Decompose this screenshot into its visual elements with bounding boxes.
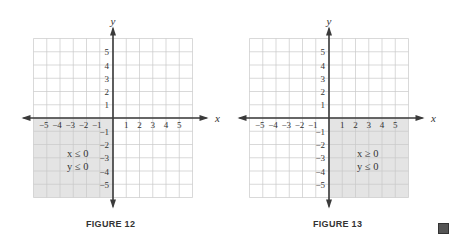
coordinate-plane-12: xy−5−4−3−2−11234554321−1−2−3−4−5x ≤ 0y ≤… <box>22 15 221 209</box>
y-tick-label: 1 <box>105 100 110 110</box>
x-axis-label: x <box>214 112 220 124</box>
coordinate-plane-13: xy−5−4−3−2−11234554321−1−2−3−4−5x ≥ 0y ≤… <box>238 15 437 209</box>
x-axis-label: x <box>430 112 436 124</box>
figures-canvas: xy−5−4−3−2−11234554321−1−2−3−4−5x ≤ 0y ≤… <box>0 0 453 242</box>
x-tick-label: 1 <box>340 120 345 130</box>
x-tick-label: −2 <box>295 120 305 130</box>
y-axis-label: y <box>326 15 332 27</box>
y-tick-label: 5 <box>105 47 110 57</box>
x-tick-label: 3 <box>367 120 372 130</box>
y-tick-label: −4 <box>315 167 325 177</box>
y-tick-label: −3 <box>99 153 109 163</box>
y-tick-label: −1 <box>315 127 325 137</box>
x-tick-label: −2 <box>79 120 89 130</box>
y-axis-label: y <box>110 15 116 27</box>
x-tick-label: −5 <box>39 120 49 130</box>
figure-12-caption: FIGURE 12 <box>86 219 135 229</box>
x-tick-label: 3 <box>151 120 156 130</box>
y-tick-label: 2 <box>321 87 326 97</box>
inequality-y: y ≤ 0 <box>357 161 379 172</box>
y-tick-label: 4 <box>321 61 326 71</box>
x-axis-right-arrow-icon <box>200 115 209 121</box>
y-tick-label: −2 <box>315 140 325 150</box>
y-tick-label: 5 <box>321 47 326 57</box>
x-tick-label: −4 <box>52 120 62 130</box>
y-tick-label: 1 <box>321 100 326 110</box>
x-tick-label: −5 <box>255 120 265 130</box>
figure-13-caption: FIGURE 13 <box>313 219 362 229</box>
y-axis-down-arrow-icon <box>110 200 116 209</box>
y-tick-label: 2 <box>105 87 110 97</box>
y-tick-label: 3 <box>321 74 326 84</box>
x-axis-left-arrow-icon <box>22 115 31 121</box>
x-tick-label: 5 <box>177 120 182 130</box>
x-axis-right-arrow-icon <box>416 115 425 121</box>
x-tick-label: −3 <box>281 120 291 130</box>
x-tick-label: 4 <box>380 120 385 130</box>
x-axis-left-arrow-icon <box>238 115 247 121</box>
x-tick-label: −3 <box>65 120 75 130</box>
y-axis-up-arrow-icon <box>326 27 332 36</box>
inequality-y: y ≤ 0 <box>67 161 89 172</box>
x-tick-label: 2 <box>353 120 358 130</box>
y-axis-down-arrow-icon <box>326 200 332 209</box>
y-tick-label: −1 <box>99 127 109 137</box>
y-tick-label: −4 <box>99 167 109 177</box>
y-tick-label: 3 <box>105 74 110 84</box>
x-tick-label: 4 <box>164 120 169 130</box>
y-tick-label: −5 <box>99 180 109 190</box>
y-axis-up-arrow-icon <box>110 27 116 36</box>
x-tick-label: 2 <box>137 120 142 130</box>
corner-badge-icon <box>438 223 449 234</box>
x-tick-label: 5 <box>393 120 398 130</box>
y-tick-label: 4 <box>105 61 110 71</box>
x-tick-label: −4 <box>268 120 278 130</box>
y-tick-label: −3 <box>315 153 325 163</box>
x-tick-label: 1 <box>124 120 129 130</box>
inequality-x: x ≤ 0 <box>67 148 89 159</box>
y-tick-label: −2 <box>99 140 109 150</box>
inequality-x: x ≥ 0 <box>357 148 379 159</box>
y-tick-label: −5 <box>315 180 325 190</box>
